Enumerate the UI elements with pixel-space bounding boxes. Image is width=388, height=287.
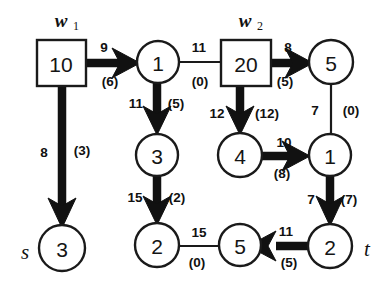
node-circle-2t[interactable]: 2 <box>308 224 352 268</box>
edge-capacity-label: 11 <box>279 224 294 239</box>
edge-3-to-2 <box>143 176 171 225</box>
node-label: 3 <box>56 238 68 261</box>
edge-w1-to-3s <box>48 86 76 228</box>
edge-flow-label: (5) <box>168 96 185 111</box>
node-label: 4 <box>234 145 246 168</box>
edge-capacity-label: 8 <box>284 40 292 55</box>
sink-terminal-label: t <box>364 237 371 261</box>
node-box-w1[interactable]: 10 <box>37 40 86 86</box>
edge-flow-label: (0) <box>189 255 206 270</box>
edge-flow-label: (12) <box>255 106 279 121</box>
node-label: 3 <box>151 145 163 168</box>
flow-network-graph: 10 1 20 5 3 4 1 <box>0 0 388 287</box>
node-label: 20 <box>234 53 257 76</box>
edge-capacity-label: 7 <box>307 192 315 207</box>
node-circle-4[interactable]: 4 <box>218 133 262 177</box>
edge-flow-label: (7) <box>341 192 358 207</box>
node-label: 5 <box>325 52 337 75</box>
warehouse-label-subscript: 2 <box>257 19 263 33</box>
warehouse-label-base: w <box>239 10 252 31</box>
edge-flow-label: (8) <box>274 166 291 181</box>
edge-capacity-label: 15 <box>191 225 207 240</box>
edge-capacity-label: 7 <box>311 103 319 118</box>
edge-capacity-label: 12 <box>209 106 224 121</box>
node-circle-1b[interactable]: 1 <box>309 134 351 176</box>
source-terminal-label: s <box>21 240 29 264</box>
warehouse-label-base: w <box>55 10 68 31</box>
node-circle-5b[interactable]: 5 <box>219 224 261 266</box>
edge-flow-label: (0) <box>343 103 360 118</box>
warehouse-label-w1: w 1 <box>55 10 79 34</box>
warehouse-label-subscript: 1 <box>73 19 79 33</box>
node-circle-1a[interactable]: 1 <box>137 41 179 83</box>
edge-flow-label: (0) <box>192 74 209 89</box>
edge-capacity-label: 8 <box>40 145 48 160</box>
edge-capacity-label: 15 <box>127 190 143 205</box>
node-box-w2[interactable]: 20 <box>221 40 271 86</box>
edge-flow-label: (2) <box>169 190 186 205</box>
node-label: 2 <box>324 236 336 259</box>
node-label: 5 <box>234 235 246 258</box>
edge-flow-label: (5) <box>277 74 294 89</box>
node-circle-2mid[interactable]: 2 <box>135 223 179 267</box>
warehouse-label-w2: w 2 <box>239 10 263 34</box>
edge-capacity-label: 9 <box>100 40 108 55</box>
node-label: 1 <box>152 52 164 75</box>
edge-flow-label: (5) <box>281 255 298 270</box>
node-label: 1 <box>324 145 336 168</box>
edge-capacity-label: 11 <box>192 40 207 55</box>
node-label: 2 <box>151 235 163 258</box>
figure-canvas: 10 1 20 5 3 4 1 <box>0 0 388 287</box>
edge-capacity-label: 11 <box>129 96 144 111</box>
node-label: 10 <box>49 53 72 76</box>
node-circle-5a[interactable]: 5 <box>309 40 353 84</box>
edge-flow-label: (3) <box>74 143 91 158</box>
node-circle-3s[interactable]: 3 <box>39 225 85 271</box>
node-circle-3mid[interactable]: 3 <box>136 134 178 176</box>
edge-capacity-label: 10 <box>276 135 291 150</box>
edge-flow-label: (6) <box>102 74 119 89</box>
edge-w2-to-4 <box>226 86 254 135</box>
